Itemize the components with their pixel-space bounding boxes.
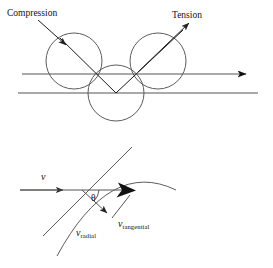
bottom-diagram-group — [20, 147, 176, 256]
v-radial-label: vradial — [76, 223, 96, 239]
circle-right — [130, 33, 186, 89]
compression-label: Compression — [7, 9, 57, 19]
surface-arc — [57, 182, 176, 256]
v-tangential-label: vtangential — [118, 214, 149, 230]
top-diagram-group — [18, 20, 258, 121]
v-label: v — [41, 172, 45, 182]
tension-arrow-icon — [138, 23, 189, 72]
figure-canvas: Compression Tension v θ vradial vtangent… — [0, 0, 273, 268]
circle-left — [46, 33, 102, 89]
v-radial-subscript: radial — [80, 232, 96, 239]
v-tangential-subscript: tangential — [122, 223, 149, 230]
tension-label: Tension — [172, 11, 202, 21]
compression-arrow-icon — [38, 20, 66, 45]
theta-label: θ — [91, 194, 96, 204]
